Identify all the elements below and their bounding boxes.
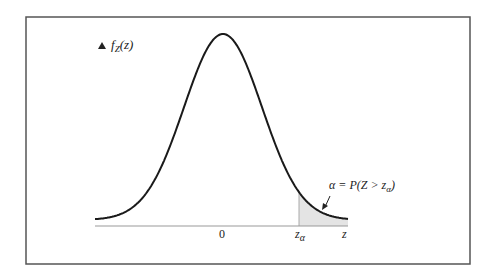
normal-distribution-figure: fZ(z) 0 zα z α = P(Z > zα) bbox=[0, 0, 493, 280]
density-curve bbox=[95, 34, 348, 219]
x-axis-label: z bbox=[341, 227, 347, 241]
y-axis-label: fZ(z) bbox=[111, 37, 133, 54]
tick-label-zero: 0 bbox=[219, 227, 225, 241]
arrowhead-icon bbox=[322, 203, 328, 210]
alpha-annotation: α = P(Z > zα) bbox=[329, 178, 395, 194]
tail-area-shade bbox=[299, 192, 348, 226]
figure-frame bbox=[26, 17, 470, 264]
up-arrow-icon bbox=[98, 42, 106, 49]
tick-label-z-alpha: zα bbox=[294, 227, 306, 243]
